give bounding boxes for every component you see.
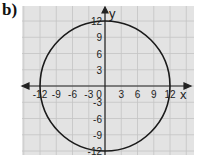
y-tick-label: 9 <box>96 32 102 43</box>
x-tick-label: -9 <box>52 89 61 100</box>
y-tick-label: 12 <box>91 16 103 27</box>
x-tick-label: 12 <box>164 89 176 100</box>
y-tick-label: 6 <box>96 49 102 60</box>
y-tick-label: 3 <box>96 65 102 76</box>
grid-background <box>22 6 194 155</box>
y-tick-label: -3 <box>93 97 102 108</box>
x-tick-label: 9 <box>151 89 157 100</box>
circle-graph: -12-9-6-3036912 12963-3-6-9-12 x y <box>0 0 202 155</box>
x-tick-label: 6 <box>135 89 141 100</box>
y-tick-label: -9 <box>93 130 102 141</box>
y-axis-label: y <box>109 6 116 21</box>
x-tick-label: -6 <box>68 89 77 100</box>
x-tick-label: 3 <box>118 89 124 100</box>
y-tick-label: -6 <box>93 114 102 125</box>
x-axis-label: x <box>180 87 187 102</box>
y-tick-label: -12 <box>88 146 103 155</box>
x-tick-label: -12 <box>33 89 48 100</box>
